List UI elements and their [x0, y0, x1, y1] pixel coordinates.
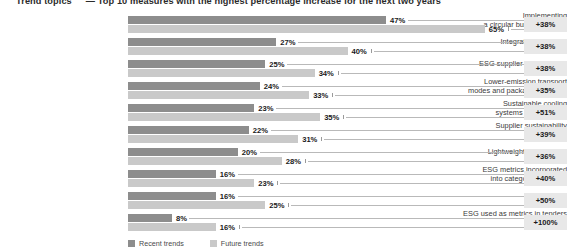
- bar-fill-recent: [128, 170, 216, 178]
- leader-line-future: [308, 161, 524, 162]
- leader-tick-future: [288, 203, 289, 207]
- increase-badge: +100%: [524, 215, 567, 230]
- leader-tick-future: [371, 49, 372, 53]
- bar-fill-future: [128, 25, 485, 33]
- bar-recent-trends: [128, 126, 249, 134]
- bar-fill-recent: [128, 126, 249, 134]
- leader-line-future: [374, 51, 524, 52]
- increase-badge: +38%: [524, 39, 567, 54]
- bar-fill-recent: [128, 192, 216, 200]
- bar-fill-future: [128, 201, 265, 209]
- bar-fill-recent: [128, 148, 238, 156]
- title-text: Top 10 measures with the highest percent…: [98, 0, 441, 6]
- bar-value-future: 34%: [319, 69, 334, 78]
- bar-recent-trends: [128, 148, 238, 156]
- bar-fill-future: [128, 179, 254, 187]
- page-title: Trend topics— Top 10 measures with the h…: [16, 0, 441, 6]
- bar-value-recent: 16%: [220, 170, 235, 179]
- legend-swatch-icon: [128, 240, 135, 247]
- bar-recent-trends: [128, 16, 386, 24]
- bar-future-trends: [128, 201, 265, 209]
- legend-label: Recent trends: [139, 239, 184, 248]
- bar-fill-recent: [128, 60, 265, 68]
- legend-item-recent: Recent trends: [128, 239, 184, 248]
- bar-value-future: 23%: [258, 179, 273, 188]
- leader-line-future: [335, 95, 524, 96]
- leader-line-future: [511, 29, 524, 30]
- increase-badge: +50%: [524, 193, 567, 208]
- bar-fill-recent: [128, 16, 386, 24]
- bar-fill-future: [128, 113, 320, 121]
- bar-future-trends: [128, 179, 254, 187]
- bar-fill-future: [128, 69, 315, 77]
- bar-value-recent: 8%: [176, 214, 187, 223]
- bar-fill-future: [128, 47, 348, 55]
- bar-recent-trends: [128, 60, 265, 68]
- bar-value-future: 40%: [352, 47, 367, 56]
- bar-future-trends: [128, 223, 216, 231]
- bar-recent-trends: [128, 192, 216, 200]
- title-lead: Trend topics: [16, 0, 72, 6]
- bar-fill-recent: [128, 214, 172, 222]
- leader-line-recent: [408, 20, 524, 21]
- leader-line-recent: [271, 130, 524, 131]
- leader-line-recent: [287, 64, 524, 65]
- leader-line-recent: [276, 108, 524, 109]
- increase-badge: +38%: [524, 17, 567, 32]
- leader-tick-future: [343, 115, 344, 119]
- leader-line-future: [291, 205, 524, 206]
- increase-badge: +36%: [524, 149, 567, 164]
- bar-future-trends: [128, 135, 298, 143]
- bar-recent-trends: [128, 170, 216, 178]
- bar-fill-future: [128, 157, 282, 165]
- leader-line-future: [324, 139, 524, 140]
- bar-recent-trends: [128, 214, 172, 222]
- bar-value-recent: 22%: [253, 126, 268, 135]
- bar-fill-recent: [128, 104, 254, 112]
- legend-item-future: Future trends: [210, 239, 264, 248]
- leader-line-recent: [282, 86, 524, 87]
- leader-line-recent: [298, 42, 524, 43]
- bar-future-trends: [128, 25, 485, 33]
- bar-future-trends: [128, 113, 320, 121]
- bar-value-future: 33%: [313, 91, 328, 100]
- bar-fill-future: [128, 91, 309, 99]
- bar-value-recent: 47%: [390, 16, 405, 25]
- bar-fill-future: [128, 135, 298, 143]
- bar-value-recent: 23%: [258, 104, 273, 113]
- bar-value-recent: 16%: [220, 192, 235, 201]
- bar-future-trends: [128, 69, 315, 77]
- bar-recent-trends: [128, 82, 260, 90]
- bar-value-future: 65%: [489, 25, 504, 34]
- increase-badge: +35%: [524, 83, 567, 98]
- bar-value-future: 31%: [302, 135, 317, 144]
- bar-value-recent: 20%: [242, 148, 257, 157]
- leader-line-recent: [238, 174, 524, 175]
- bar-value-recent: 25%: [269, 60, 284, 69]
- leader-tick-future: [508, 27, 509, 31]
- bar-value-future: 16%: [220, 223, 235, 232]
- leader-line-recent: [238, 196, 524, 197]
- leader-line-future: [341, 73, 524, 74]
- leader-tick-future: [338, 71, 339, 75]
- leader-tick-future: [332, 93, 333, 97]
- bar-value-future: 28%: [286, 157, 301, 166]
- bar-recent-trends: [128, 104, 254, 112]
- bar-fill-recent: [128, 82, 260, 90]
- bar-value-recent: 27%: [280, 38, 295, 47]
- bar-future-trends: [128, 157, 282, 165]
- bar-value-recent: 24%: [264, 82, 279, 91]
- bar-value-future: 25%: [269, 201, 284, 210]
- legend-swatch-icon: [210, 240, 217, 247]
- chart-legend: Recent trendsFuture trends: [128, 239, 264, 248]
- legend-label: Future trends: [221, 239, 264, 248]
- bar-fill-future: [128, 223, 216, 231]
- leader-line-recent: [189, 218, 524, 219]
- increase-badge: +51%: [524, 105, 567, 120]
- bar-recent-trends: [128, 38, 276, 46]
- increase-badge: +39%: [524, 127, 567, 142]
- leader-line-future: [280, 183, 524, 184]
- increase-badge: +40%: [524, 171, 567, 186]
- bar-future-trends: [128, 47, 348, 55]
- bar-fill-recent: [128, 38, 276, 46]
